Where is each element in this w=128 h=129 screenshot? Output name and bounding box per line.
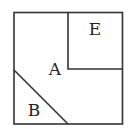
label-a: A [48,59,62,79]
diagram-canvas: E A B [0,0,128,129]
label-e: E [89,19,101,39]
label-b: B [28,100,41,120]
